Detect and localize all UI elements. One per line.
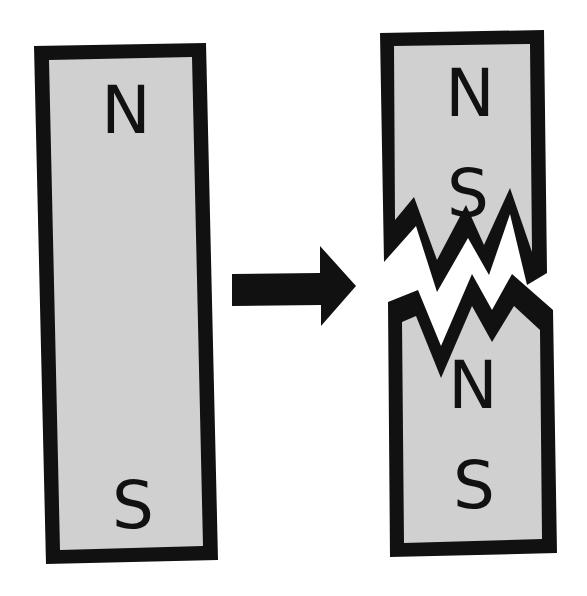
broken-magnet-bottom-piece: N S bbox=[388, 274, 557, 557]
original-north-label: N bbox=[101, 72, 150, 149]
top-piece-north-label: N bbox=[445, 55, 494, 132]
bottom-piece-south-label: S bbox=[453, 447, 495, 524]
bottom-piece-north-label: N bbox=[448, 347, 497, 424]
original-south-label: S bbox=[112, 467, 154, 544]
arrow-right-icon bbox=[232, 246, 356, 326]
broken-magnet-top-piece: N S bbox=[380, 30, 547, 292]
original-magnet: N S bbox=[34, 43, 218, 564]
magnet-diagram: N S N S N S bbox=[0, 0, 587, 596]
top-piece-south-label: S bbox=[447, 155, 489, 232]
